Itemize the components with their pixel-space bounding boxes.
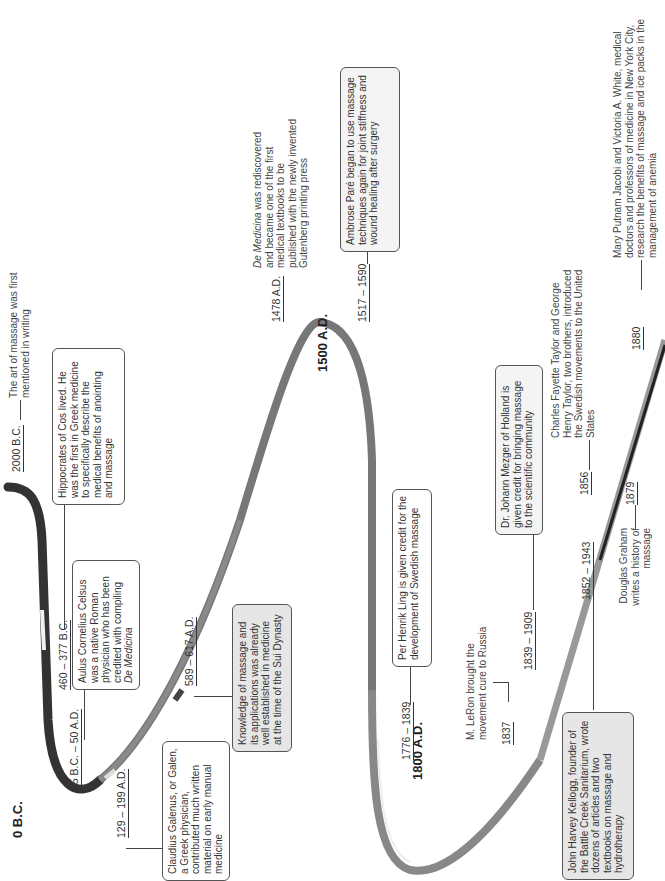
event-box-celsus: Aulus Cornelius Celsus was a native Roma…	[72, 560, 140, 690]
connector	[593, 600, 594, 710]
event-box-sui-dynasty: Knowledge of massage and its application…	[232, 604, 292, 752]
connector	[64, 502, 65, 630]
connector	[641, 260, 642, 290]
connector	[635, 505, 636, 530]
event-box-kellogg: John Harvey Kellogg, founder of the Batt…	[562, 712, 634, 880]
date-589ad: 589 – 617 A.D.	[183, 617, 197, 686]
event-box-galen: Claudius Galenus, or Galen, a Greek phys…	[162, 741, 230, 881]
date-2000bc: 2000 B.C.	[10, 425, 24, 472]
connector	[493, 682, 508, 683]
connector	[410, 667, 411, 705]
date-1880: 1880	[630, 327, 644, 350]
note-2000bc: The art of massage was first mentioned i…	[8, 238, 31, 398]
date-1856: 1856	[578, 472, 592, 495]
event-box-ambrose-pare: Ambrose Paré began to use massage techni…	[340, 67, 400, 252]
note-1478ad: De Medicina was rediscovered and became …	[252, 118, 310, 268]
connector	[533, 535, 534, 610]
date-1478ad: 1478 A.D.	[270, 276, 284, 322]
date-1776: 1776 – 1839	[400, 702, 414, 760]
connector	[589, 440, 590, 470]
connector	[126, 848, 162, 849]
date-25bc: 25 B.C. – 50 A.D.	[68, 709, 82, 790]
connector	[20, 400, 21, 420]
date-1837: 1837	[500, 722, 514, 745]
era-1500ad: 1500 A.D.	[315, 314, 330, 372]
note-1879: Douglas Graham writes a history of massa…	[618, 528, 653, 628]
date-460bc: 460 – 377 B.C.	[57, 620, 71, 690]
connector	[194, 696, 232, 697]
connector	[367, 252, 368, 264]
note-1856: Charles Fayette Taylor and George Henry …	[550, 263, 596, 438]
note-1880: Mary Putnam Jacobi and Victoria A. White…	[612, 0, 658, 258]
date-1839: 1839 – 1909	[522, 612, 536, 670]
event-box-hippocrates: Hippocrates of Cos lived. He was the fir…	[52, 348, 125, 505]
era-0bc: 0 B.C.	[10, 801, 25, 838]
event-box-per-henrik-ling: Per Henrik Ling is given credit for the …	[392, 489, 432, 667]
date-1879: 1879	[624, 482, 638, 505]
connector	[84, 690, 85, 740]
date-1852: 1852 – 1943	[580, 542, 594, 600]
connector	[508, 682, 509, 702]
date-129ad: 129 – 199 A.D.	[115, 769, 129, 838]
date-1517: 1517 – 1590	[356, 264, 370, 322]
event-box-mezger: Dr. Johann Mezger of Holland is given cr…	[495, 365, 543, 535]
note-1837: M. LeRon brought the movement cure to Ru…	[465, 620, 488, 740]
